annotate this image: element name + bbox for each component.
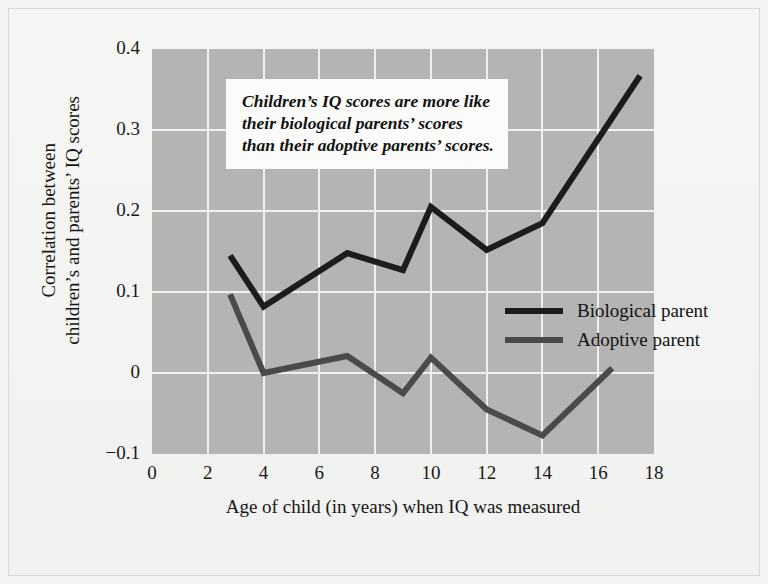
x-tick-label: 10 [411,462,451,484]
callout-annotation: Children’s IQ scores are more like their… [226,79,508,169]
y-axis-title-line-2: children’s and parents’ IQ scores [61,25,85,415]
x-axis-title: Age of child (in years) when IQ was meas… [152,496,654,518]
x-tick-label: 14 [522,462,562,484]
legend-swatch-icon [505,308,563,314]
x-tick-label: 2 [188,462,228,484]
legend-item: Adoptive parent [505,325,755,354]
x-tick-label: 18 [634,462,674,484]
legend-item: Biological parent [505,296,755,325]
legend-label: Biological parent [577,300,708,322]
x-tick-label: 8 [355,462,395,484]
x-tick-label: 0 [132,462,172,484]
legend-swatch-icon [505,337,563,343]
figure: 0.40.30.20.10−0.1 024681012141618 Age of… [0,0,768,584]
legend: Biological parentAdoptive parent [505,296,755,354]
legend-label: Adoptive parent [577,329,700,351]
x-tick-label: 12 [467,462,507,484]
x-tick-label: 16 [578,462,618,484]
y-axis-title-line-1: Correlation between [37,25,61,415]
x-tick-label: 4 [244,462,284,484]
x-tick-label: 6 [299,462,339,484]
y-axis-title: Correlation between children’s and paren… [37,25,86,415]
